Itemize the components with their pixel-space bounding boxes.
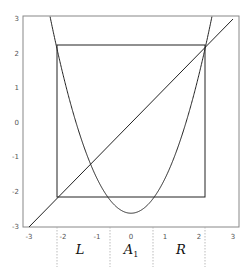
y-tick-0: 0 [15, 119, 19, 127]
region-label-R: R [175, 242, 186, 257]
x-tick-neg1: -1 [94, 233, 101, 241]
y-tick-neg1: -1 [12, 153, 19, 161]
y-tick-2: 2 [15, 50, 19, 58]
x-tick-2: 2 [197, 233, 201, 241]
invariant-square [57, 45, 205, 197]
y-axis-ticks: 3 2 1 0 -1 -2 -3 [12, 15, 19, 231]
parabola-curve [50, 17, 212, 214]
x-tick-1: 1 [163, 233, 167, 241]
y-tick-1: 1 [15, 84, 19, 92]
chart-plot: 3 2 1 0 -1 -2 -3 -3 -2 -1 0 1 2 3 L A1 R [0, 0, 252, 267]
y-tick-neg2: -2 [12, 188, 19, 196]
x-tick-0: 0 [129, 233, 133, 241]
x-tick-3: 3 [231, 233, 235, 241]
plot-frame [23, 16, 239, 227]
y-tick-neg3: -3 [12, 223, 19, 231]
region-label-A1: A1 [123, 242, 138, 259]
identity-line [29, 19, 233, 227]
region-label-L: L [75, 242, 85, 257]
x-tick-neg3: -3 [26, 233, 33, 241]
x-tick-neg2: -2 [60, 233, 67, 241]
y-tick-3: 3 [15, 15, 19, 23]
